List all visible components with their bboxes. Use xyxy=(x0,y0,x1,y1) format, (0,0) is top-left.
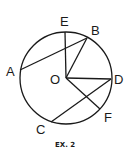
label-f: F xyxy=(104,110,112,125)
label-c: C xyxy=(36,122,45,137)
caption: EX. 2 xyxy=(55,141,75,149)
chord-ab xyxy=(20,38,87,70)
segment-of xyxy=(66,78,100,109)
label-o: O xyxy=(50,72,60,87)
segment-od xyxy=(66,78,111,79)
segment-oe xyxy=(65,32,66,78)
segment-ob xyxy=(66,38,87,78)
label-a: A xyxy=(6,64,15,79)
circle-diagram: E B A O D F C EX. 2 xyxy=(0,0,133,153)
label-b: B xyxy=(91,23,100,38)
label-d: D xyxy=(114,72,123,87)
label-e: E xyxy=(60,14,69,29)
